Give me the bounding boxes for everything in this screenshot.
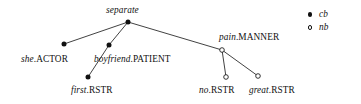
lemma-first-rstr: first [71, 85, 87, 95]
lemma-boyfriend-patient: boyfriend [94, 54, 131, 64]
legend-item-nb: nb [305, 21, 357, 34]
node-label-separate: separate [106, 6, 139, 15]
edge-separate-pain [128, 22, 222, 50]
node-label-no-rstr: no.RSTR [199, 86, 235, 95]
legend-item-cb: cb [305, 8, 357, 21]
nodes-group [62, 20, 261, 80]
lemma-separate: separate [106, 5, 139, 15]
dependency-tree-diagram: separateshe.ACTORboyfriend.PATIENTpain.M… [0, 0, 361, 104]
node-first-rstr[interactable] [86, 75, 91, 80]
filled-dot-icon [305, 12, 315, 17]
function-great-rstr: .RSTR [269, 85, 295, 95]
edge-pain-no [222, 50, 226, 77]
node-separate[interactable] [126, 20, 131, 25]
node-she-actor[interactable] [62, 42, 67, 47]
node-label-she-actor: she.ACTOR [21, 55, 68, 64]
function-no-rstr: .RSTR [209, 85, 235, 95]
function-she-actor: .ACTOR [34, 54, 68, 64]
function-pain-manner: .MANNER [236, 32, 279, 42]
hollow-dot-icon [305, 25, 315, 30]
legend: cb nb [305, 8, 357, 34]
lemma-great-rstr: great [249, 85, 269, 95]
node-label-pain-manner: pain.MANNER [219, 33, 279, 42]
node-pain-manner[interactable] [220, 48, 225, 53]
lemma-no-rstr: no [199, 85, 209, 95]
function-boyfriend-patient: .PATIENT [131, 54, 171, 64]
function-first-rstr: .RSTR [87, 85, 113, 95]
legend-label-cb: cb [319, 10, 328, 19]
legend-label-nb: nb [319, 23, 328, 32]
lemma-pain-manner: pain [219, 32, 236, 42]
node-label-great-rstr: great.RSTR [249, 86, 295, 95]
edge-pain-great [222, 50, 258, 76]
node-great-rstr[interactable] [256, 74, 261, 79]
edges-group [64, 22, 258, 77]
node-boyfriend-patient[interactable] [107, 43, 112, 48]
lemma-she-actor: she [21, 54, 34, 64]
node-label-first-rstr: first.RSTR [71, 86, 113, 95]
node-label-boyfriend-patient: boyfriend.PATIENT [94, 55, 171, 64]
node-no-rstr[interactable] [224, 75, 229, 80]
